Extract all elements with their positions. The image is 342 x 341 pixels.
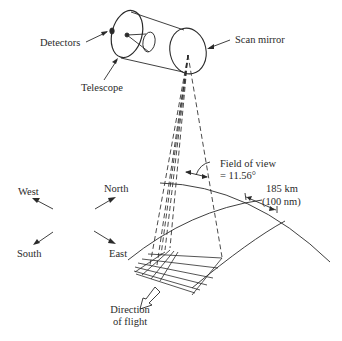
compass-west: West	[18, 186, 39, 197]
scan-mirror-label: Scan mirror	[235, 34, 285, 45]
fov-label-line1: Field of view	[220, 158, 276, 169]
swath-label-line1: 185 km	[266, 183, 298, 194]
direction-label-line2: of flight	[96, 316, 164, 327]
compass-south: South	[17, 248, 42, 259]
diagram-drawing	[0, 0, 342, 341]
direction-label-line1: Direction	[96, 304, 164, 315]
compass-east: East	[109, 248, 127, 259]
fov-label-line2: = 11.56°	[220, 170, 256, 181]
compass-north: North	[104, 183, 129, 194]
telescope-cylinder	[106, 7, 184, 72]
telescope-label: Telescope	[81, 82, 123, 93]
detectors-label: Detectors	[40, 37, 80, 48]
swath-label-line2: (100 nm)	[262, 196, 301, 207]
scan-rays	[150, 55, 222, 265]
ground-scan-grid	[134, 250, 222, 295]
satellite-scanner-diagram: Detectors Telescope Scan mirror Field of…	[0, 0, 342, 341]
compass-arrows	[32, 197, 116, 245]
